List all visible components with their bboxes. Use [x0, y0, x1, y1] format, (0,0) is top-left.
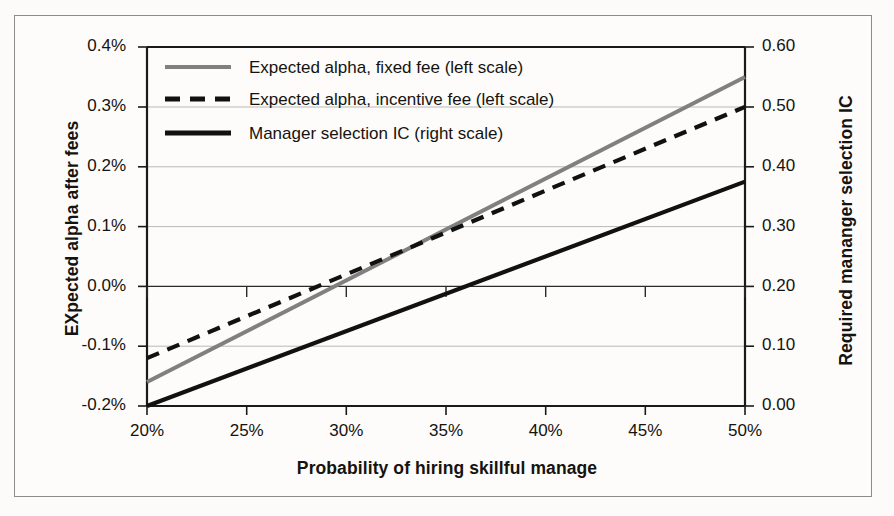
legend-swatches [165, 67, 231, 133]
xtick-3: 35% [406, 421, 486, 441]
xtick-2: 30% [306, 421, 386, 441]
ytick-right-5: 0.10 [762, 335, 842, 355]
ytick-right-4: 0.20 [762, 276, 842, 296]
legend-label-incentive-fee: Expected alpha, incentive fee (left scal… [249, 90, 554, 110]
ytick-left-0: 0.4% [46, 36, 126, 56]
ytick-right-3: 0.30 [762, 216, 842, 236]
xtick-5: 45% [605, 421, 685, 441]
series-line-incentive-fee [147, 107, 745, 358]
ytick-right-2: 0.40 [762, 156, 842, 176]
xtick-1: 25% [207, 421, 287, 441]
left-axis-ticks [138, 47, 147, 406]
y-axis-label-right: Required mananger selection IC [836, 81, 857, 381]
ytick-left-5: -0.1% [46, 335, 126, 355]
ytick-left-6: -0.2% [46, 395, 126, 415]
x-axis-label: Probability of hiring skillful manage [147, 458, 747, 479]
right-axis-ticks [745, 47, 754, 406]
ytick-left-3: 0.1% [46, 216, 126, 236]
series-line-fixed-fee [147, 77, 745, 382]
legend-label-fixed-fee: Expected alpha, fixed fee (left scale) [249, 58, 523, 78]
ytick-left-1: 0.3% [46, 96, 126, 116]
ytick-right-0: 0.60 [762, 36, 842, 56]
series-line-manager-selection-ic [147, 182, 745, 406]
xtick-6: 50% [705, 421, 785, 441]
xtick-0: 20% [107, 421, 187, 441]
legend-label-ic: Manager selection IC (right scale) [249, 124, 503, 144]
x-axis-ticks [147, 406, 745, 415]
xtick-4: 40% [506, 421, 586, 441]
ytick-left-4: 0.0% [46, 276, 126, 296]
ytick-right-1: 0.50 [762, 96, 842, 116]
y-axis-label-left: EXpected alpha after fees [62, 84, 83, 374]
ytick-left-2: 0.2% [46, 156, 126, 176]
ytick-right-6: 0.00 [762, 395, 842, 415]
chart-figure: , [0, 0, 894, 516]
